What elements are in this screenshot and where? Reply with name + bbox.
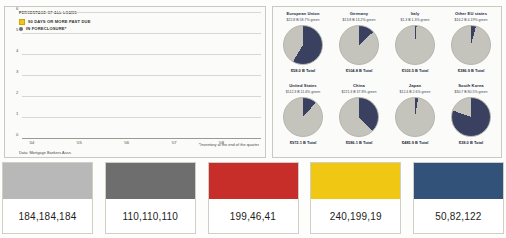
pie-chart-other-eu-states — [451, 25, 491, 65]
pie-cell: Italy$1.3 B 1.3% green$103.5 B Total — [387, 10, 443, 82]
bar-chart-panel: PERCENTAGE OF ALL LOANS 90 DAYS OR MORE … — [4, 6, 266, 158]
bar-slot — [213, 13, 225, 139]
swatch-rgb-label: 240,199,19 — [311, 199, 400, 233]
data-source: Data: Mortgage Bankers Assn. — [19, 150, 72, 155]
pie-cell: Other EU states$16.2 B 4.19% green$386.9… — [443, 10, 499, 82]
infographic-sheet: PERCENTAGE OF ALL LOANS 90 DAYS OR MORE … — [0, 0, 506, 238]
pie-subtitle: $22.8 B 58.7% green — [287, 18, 320, 22]
color-swatch: 110,110,110 — [105, 162, 196, 234]
bar-slot — [106, 13, 118, 139]
pie-country-name: Other EU states — [455, 11, 487, 16]
x-tick-label-06: '06 — [124, 140, 129, 145]
pie-chart-panel: European Union$22.8 B 58.7% green$58.0 B… — [272, 6, 502, 158]
swatch-rgb-label: 50,82,122 — [414, 199, 503, 233]
pie-subtitle: $1.3 B 1.3% green — [401, 18, 430, 22]
pie-chart-japan — [395, 97, 435, 137]
pie-subtitle: $30.7 B 80.5% green — [455, 90, 488, 94]
swatch-color-block — [3, 163, 92, 199]
y-tick-label-6: 6 — [16, 6, 22, 11]
color-swatch-row: 184,184,184110,110,110199,46,41240,199,1… — [0, 162, 506, 238]
bar-slot — [177, 13, 189, 139]
bar-slot — [47, 13, 59, 139]
bar-slot — [82, 13, 94, 139]
pie-total-label: $386.9 B Total — [458, 68, 485, 73]
pie-total-label: $586.1 B Total — [346, 140, 373, 145]
pie-total-label: $972.1 B Total — [290, 140, 317, 145]
bar-slot — [35, 13, 47, 139]
pie-total-label: $104.8 B Total — [346, 68, 373, 73]
x-tick-label-04: '04 — [29, 140, 34, 145]
color-swatch: 199,46,41 — [208, 162, 299, 234]
y-tick-label-5: 5 — [16, 27, 22, 32]
x-tick-label-05: '05 — [76, 140, 81, 145]
pie-total-label: $485.9 B Total — [402, 140, 429, 145]
bar-slot — [70, 13, 82, 139]
pie-total-label: $58.0 B Total — [291, 68, 315, 73]
swatch-color-block — [209, 163, 298, 199]
swatch-color-block — [311, 163, 400, 199]
pie-country-name: Italy — [411, 11, 420, 16]
bar-series — [23, 13, 260, 139]
color-swatch: 240,199,19 — [310, 162, 401, 234]
charts-area: PERCENTAGE OF ALL LOANS 90 DAYS OR MORE … — [0, 0, 506, 160]
pie-cell: European Union$22.8 B 58.7% green$58.0 B… — [275, 10, 331, 82]
pie-cell: China$221.3 B 37.8% green$586.1 B Total — [331, 82, 387, 154]
bar-chart-plot: 0123456 — [16, 13, 261, 139]
swatch-color-block — [106, 163, 195, 199]
swatch-color-block — [414, 163, 503, 199]
pie-total-label: $103.5 B Total — [402, 68, 429, 73]
swatch-rgb-label: 110,110,110 — [106, 199, 195, 233]
bar-slot — [141, 13, 153, 139]
bar-slot — [248, 13, 260, 139]
pie-cell: United States$112.3 B 11.6% green$972.1 … — [275, 82, 331, 154]
pie-subtitle: $16.2 B 4.19% green — [455, 18, 488, 22]
pie-subtitle: $12.4 B 2.6% green — [400, 90, 431, 94]
pie-country-name: United States — [289, 83, 316, 88]
bar-slot — [130, 13, 142, 139]
color-swatch: 50,82,122 — [413, 162, 504, 234]
pie-country-name: South Korea — [458, 83, 483, 88]
pie-chart-european-union — [283, 25, 323, 65]
pie-country-name: Germany — [350, 11, 368, 16]
swatch-rgb-label: 199,46,41 — [209, 199, 298, 233]
pie-total-label: $38.0 B Total — [459, 140, 483, 145]
y-tick-label-4: 4 — [16, 48, 22, 53]
pie-country-name: Japan — [409, 83, 421, 88]
color-swatch: 184,184,184 — [2, 162, 93, 234]
pie-subtitle: $112.3 B 11.6% green — [286, 90, 320, 94]
pie-country-name: China — [353, 83, 365, 88]
pie-chart-germany — [339, 25, 379, 65]
pie-chart-china — [339, 97, 379, 137]
bar-slot — [118, 13, 130, 139]
bar-slot — [59, 13, 71, 139]
y-tick-label-0: 0 — [16, 132, 22, 137]
bar-slot — [236, 13, 248, 139]
bar-slot — [224, 13, 236, 139]
y-tick-label-3: 3 — [16, 69, 22, 74]
bar-slot — [94, 13, 106, 139]
footnote: *Inventory at the end of the quarter — [199, 142, 259, 147]
pie-cell: Japan$12.4 B 2.6% green$485.9 B Total — [387, 82, 443, 154]
bar-slot — [201, 13, 213, 139]
pie-subtitle: $13.8 B 13.2% green — [343, 18, 376, 22]
swatch-rgb-label: 184,184,184 — [3, 199, 92, 233]
pie-cell: South Korea$30.7 B 80.5% green$38.0 B To… — [443, 82, 499, 154]
pie-chart-united-states — [283, 97, 323, 137]
pie-chart-south-korea — [451, 97, 491, 137]
pie-cell: Germany$13.8 B 13.2% green$104.8 B Total — [331, 10, 387, 82]
pie-subtitle: $221.3 B 37.8% green — [342, 90, 377, 94]
pie-chart-italy — [395, 25, 435, 65]
y-tick-label-1: 1 — [16, 111, 22, 116]
bar-slot — [165, 13, 177, 139]
bar-slot — [153, 13, 165, 139]
bar-slot — [189, 13, 201, 139]
x-tick-label-07: '07 — [171, 140, 176, 145]
bar-slot — [23, 13, 35, 139]
y-tick-label-2: 2 — [16, 90, 22, 95]
pie-country-name: European Union — [286, 11, 319, 16]
